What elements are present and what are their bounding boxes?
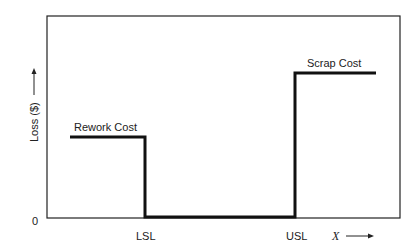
plot-frame xyxy=(47,16,400,218)
y-arrowhead-icon xyxy=(32,68,37,74)
loss-step-line xyxy=(70,73,376,217)
usl-tick: USL xyxy=(286,230,307,242)
rework-cost-label: Rework Cost xyxy=(74,121,137,133)
x-arrowhead-icon xyxy=(368,234,374,239)
loss-chart: Rework Cost Scrap Cost 0 LSL USL X Loss … xyxy=(0,0,419,248)
x-axis-label: X xyxy=(331,229,340,243)
scrap-cost-label: Scrap Cost xyxy=(307,57,361,69)
y-axis-label: Loss ($) xyxy=(28,102,40,142)
y-zero-tick: 0 xyxy=(32,215,38,227)
lsl-tick: LSL xyxy=(136,230,156,242)
